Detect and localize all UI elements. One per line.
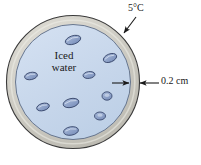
- iced-water-label-line2: water: [40, 62, 88, 74]
- iced-water-label-line1: Iced: [55, 49, 74, 61]
- temperature-label: 5°C: [128, 3, 144, 14]
- iced-water-tank-figure: 5°C 0.2 cm Iced water: [0, 0, 201, 165]
- thickness-label: 0.2 cm: [161, 76, 188, 87]
- temperature-leader-arrow: [124, 17, 136, 33]
- iced-water-label: Iced water: [40, 50, 88, 73]
